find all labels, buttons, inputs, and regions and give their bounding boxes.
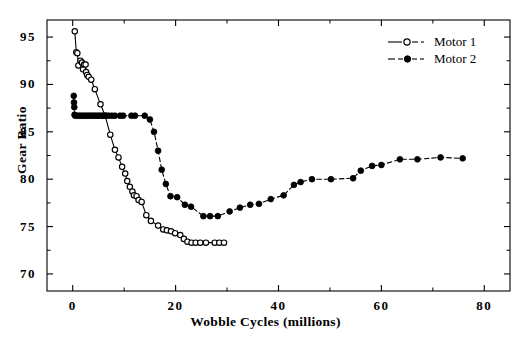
x-axis-title: Wobble Cycles (millions) bbox=[0, 314, 531, 330]
y-tick-label: 75 bbox=[0, 219, 36, 235]
y-tick-label: 95 bbox=[0, 29, 36, 45]
x-tick-label: 20 bbox=[146, 298, 206, 314]
x-tick-label: 60 bbox=[351, 298, 411, 314]
x-tick-label: 80 bbox=[454, 298, 514, 314]
legend-item-motor-2: Motor 2 bbox=[386, 50, 506, 67]
chart-legend: Motor 1 Motor 2 bbox=[386, 33, 506, 67]
x-tick-label: 0 bbox=[43, 298, 103, 314]
series-2 bbox=[71, 93, 466, 219]
y-tick-label: 70 bbox=[0, 266, 36, 282]
legend-marker-open-circle-icon bbox=[386, 35, 428, 49]
legend-label-motor-2: Motor 2 bbox=[434, 51, 476, 67]
legend-item-motor-1: Motor 1 bbox=[386, 33, 506, 50]
x-tick-label: 40 bbox=[249, 298, 309, 314]
chart-figure: 707580859095 020406080 Gear Ratio Wobble… bbox=[0, 0, 531, 343]
legend-marker-filled-circle-icon bbox=[386, 52, 428, 66]
legend-label-motor-1: Motor 1 bbox=[434, 34, 476, 50]
y-axis-title: Gear Ratio bbox=[14, 85, 30, 195]
